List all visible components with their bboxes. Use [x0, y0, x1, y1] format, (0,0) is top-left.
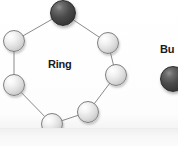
topology-node-n1 [50, 0, 76, 26]
topology-node-n3 [105, 64, 127, 86]
topology-node-n6 [3, 74, 25, 96]
ring-edge-n2-n3 [111, 53, 114, 65]
topology-node-n7 [3, 30, 25, 52]
ring-edge-n5-n6 [21, 93, 44, 117]
ring-edge-n4-n5 [62, 115, 78, 120]
topology-node-n4 [77, 101, 99, 123]
ring-topology-label: Ring [48, 58, 72, 70]
ring-edge-n3-n4 [94, 83, 109, 103]
ring-edge-n1-n2 [73, 20, 99, 37]
page-bottom-band [0, 128, 178, 146]
diagram-canvas: Ring Bu [0, 0, 178, 146]
topology-node-n2 [97, 32, 119, 54]
ring-edges-layer [0, 0, 178, 146]
bus-topology-label: Bu [160, 43, 174, 55]
ring-edge-n7-n1 [23, 19, 52, 36]
